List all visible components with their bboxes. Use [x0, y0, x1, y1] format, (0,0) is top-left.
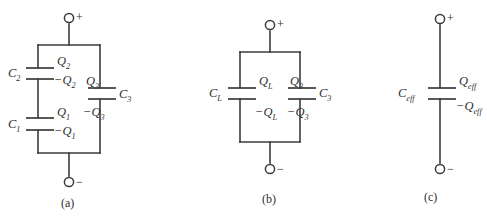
circuit-linework: [0, 0, 487, 217]
panel-b-neg-q3-label: −Q3: [287, 106, 309, 119]
panel-b-terminal-plus-label: +: [277, 18, 284, 30]
panel-b-ql-label: QL: [259, 75, 273, 88]
panel-c-terminal-plus-label: +: [447, 12, 454, 24]
panel-b-neg-ql-label: −QL: [255, 106, 277, 119]
panel-a-neg-q3-label: −Q3: [83, 106, 105, 119]
panel-b-q3-label: Q3: [290, 75, 303, 88]
panel-a-q2-label: Q2: [57, 55, 70, 68]
panel-c-terminal-plus-node: [435, 14, 444, 23]
panel-a-neg-q2-label: −Q2: [54, 74, 76, 87]
panel-a-c2-label: C2: [8, 67, 20, 80]
panel-a-c3-label: C3: [119, 88, 131, 101]
panel-a-terminal-minus-label: −: [76, 176, 83, 188]
panel-b-caption: (b): [262, 193, 276, 205]
panel-c-terminal-minus-label: −: [447, 163, 454, 175]
capacitor-network-figure: + − C2 Q2 −Q2 C1 Q1 −Q1 C3 Q3 −Q3 (a) + …: [0, 0, 487, 217]
panel-b-c3-label: C3: [319, 87, 331, 100]
panel-a-caption: (a): [61, 197, 74, 209]
panel-a-neg-q1-label: −Q1: [54, 125, 76, 138]
panel-b-terminal-plus-node: [265, 20, 274, 29]
panel-b-terminal-minus-label: −: [277, 163, 284, 175]
panel-b-cl-label: CL: [209, 87, 222, 100]
panel-a-terminal-minus-node: [64, 177, 73, 186]
panel-a-c1-label: C1: [8, 118, 20, 131]
panel-b-terminal-minus-node: [265, 164, 274, 173]
panel-c-terminal-minus-node: [435, 164, 444, 173]
panel-c-qeff-label: Qeff: [459, 75, 476, 88]
panel-a-terminal-plus-node: [64, 13, 73, 22]
panel-a-terminal-plus-label: +: [76, 11, 83, 23]
panel-a-q3-label: Q3: [86, 75, 99, 88]
panel-a-q1-label: Q1: [57, 106, 70, 119]
panel-c-caption: (c): [424, 191, 437, 203]
panel-c-ceff-label: Ceff: [398, 87, 415, 100]
panel-c-neg-qeff-label: −Qeff: [456, 100, 482, 113]
